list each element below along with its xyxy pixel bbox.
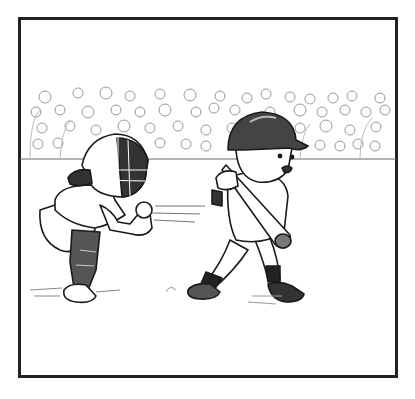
comic-panel: Pencil sketch comic panel of a youth bas… <box>0 0 415 399</box>
